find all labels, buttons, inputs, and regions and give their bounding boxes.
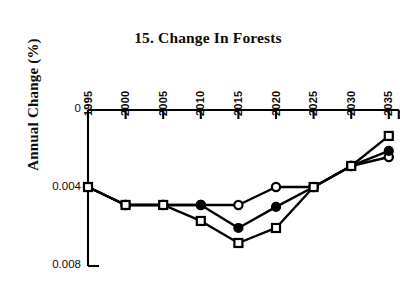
marker-open-square: [84, 183, 92, 191]
chart-figure: 15. Change In Forests Annual Change (%) …: [0, 0, 416, 302]
marker-open-square: [234, 239, 242, 247]
marker-filled-circle: [197, 201, 205, 209]
marker-open-square: [385, 132, 393, 140]
marker-filled-circle: [272, 203, 280, 211]
marker-open-square: [272, 224, 280, 232]
marker-open-square: [197, 217, 205, 225]
marker-filled-circle: [234, 224, 242, 232]
series-line: [88, 157, 389, 205]
marker-open-square: [310, 183, 318, 191]
plot-area: [0, 0, 416, 302]
data-series-group: [84, 132, 393, 247]
marker-filled-circle: [385, 147, 393, 155]
series-line: [88, 151, 389, 228]
marker-open-circle: [234, 201, 242, 209]
marker-open-circle: [272, 183, 280, 191]
series-filled-circle: [84, 147, 393, 232]
marker-open-square: [122, 201, 130, 209]
marker-open-square: [347, 162, 355, 170]
marker-open-square: [159, 201, 167, 209]
